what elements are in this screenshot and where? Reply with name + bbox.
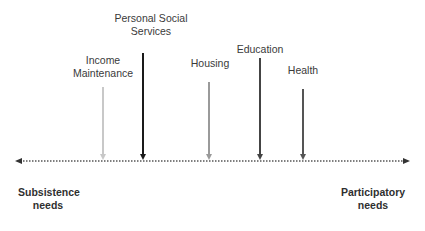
label-housing: Housing	[185, 57, 235, 70]
arrow-housing	[206, 82, 212, 160]
label-health: Health	[282, 64, 324, 77]
label-income-maintenance: Income Maintenance	[63, 54, 143, 80]
axis-right-arrowhead-icon	[403, 158, 410, 164]
arrow-income-maintenance	[100, 87, 106, 160]
label-subsistence-needs: Subsistence needs	[18, 186, 78, 212]
label-education: Education	[234, 43, 286, 56]
axis-left-arrowhead-icon	[15, 158, 22, 164]
arrow-health	[300, 89, 306, 160]
label-participatory-needs: Participatory needs	[340, 186, 406, 212]
arrow-education	[257, 58, 263, 160]
label-personal-social-services: Personal Social Services	[105, 12, 197, 38]
